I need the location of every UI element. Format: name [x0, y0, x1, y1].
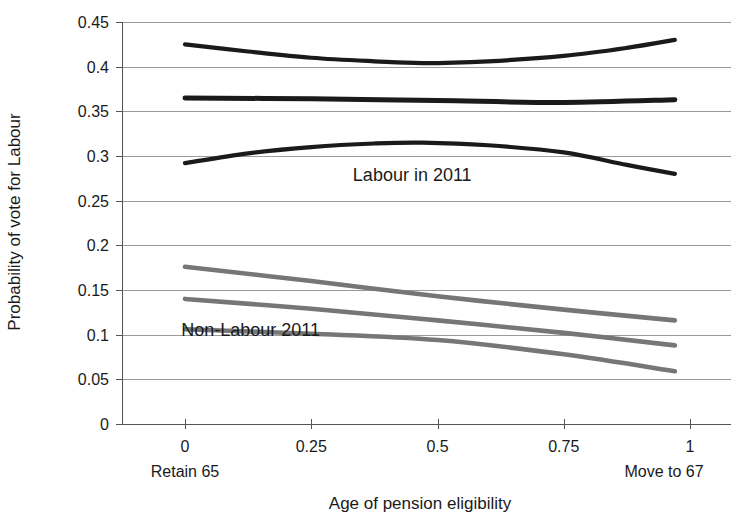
y-axis-tick-label: 0.05: [78, 371, 109, 388]
y-axis-tick-label: 0.2: [87, 237, 109, 254]
y-axis-tick-label: 0.25: [78, 193, 109, 210]
series-annotation-label: Labour in 2011: [353, 165, 472, 185]
x-axis-tick-label: 0.25: [296, 438, 327, 455]
x-axis-tick-label: 1: [686, 438, 695, 455]
x-axis-tick-label: 0.75: [548, 438, 579, 455]
x-axis-tick-label: 0.5: [426, 438, 448, 455]
y-axis-tick-label: 0.1: [87, 327, 109, 344]
x-axis-title: Age of pension eligibility: [329, 494, 512, 513]
probability-of-vote-line-chart: 00.050.10.150.20.250.30.350.40.45 00.250…: [0, 0, 733, 522]
chart-background: [0, 0, 733, 522]
y-axis-tick-label: 0: [100, 416, 109, 433]
x-axis-tick-label: 0: [181, 438, 190, 455]
x-axis-right-endpoint-label: Move to 67: [624, 463, 703, 480]
chart-figure: 00.050.10.150.20.250.30.350.40.45 00.250…: [0, 0, 733, 522]
y-axis-tick-label: 0.4: [87, 59, 109, 76]
series-annotation-label: Non-Labour 2011: [181, 320, 320, 340]
y-axis-title: Probability of vote for Labour: [5, 113, 24, 331]
y-axis-tick-label: 0.45: [78, 14, 109, 31]
y-axis-tick-label: 0.3: [87, 148, 109, 165]
y-axis-tick-label: 0.15: [78, 282, 109, 299]
x-axis-left-endpoint-label: Retain 65: [151, 463, 220, 480]
y-axis-tick-label: 0.35: [78, 103, 109, 120]
